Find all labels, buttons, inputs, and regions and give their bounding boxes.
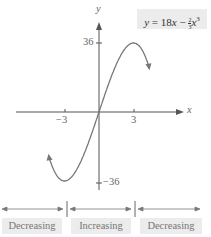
eq-minus: − [177,16,189,28]
curve-arrow-left-icon [47,154,53,161]
graph [0,0,211,237]
x-tick-label-3: 3 [131,114,136,125]
eq-coef: = 18 [149,16,172,28]
y-tick-label-neg36: −36 [103,176,119,187]
interval-arrows [2,201,200,217]
interval-increasing: Increasing [71,218,131,234]
eq-exponent: 3 [196,15,200,23]
x-tick-label-neg3: −3 [56,114,67,125]
y-axis-arrow-icon [96,22,102,30]
equation-label: y = 18x − 23x3 [137,9,207,29]
x-axis-arrow-icon [176,109,184,115]
curve-arrow-right-icon [145,63,151,70]
interval-decreasing-left: Decreasing [2,218,62,234]
y-tick-label-36: 36 [83,36,94,47]
y-axis-label: y [96,3,101,14]
interval-decreasing-right: Decreasing [140,218,202,234]
x-axis-label: x [187,104,192,115]
